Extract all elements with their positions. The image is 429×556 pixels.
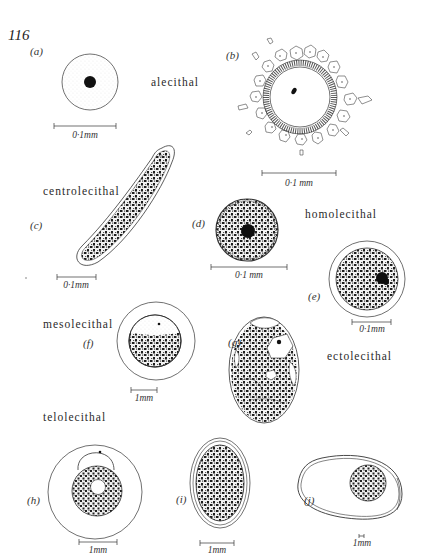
egg-types-diagram [0, 0, 429, 556]
egg-c-centrolecithal [25, 146, 174, 280]
term-mesolecithal: mesolecithal [43, 318, 113, 330]
scale-bar-label-d: 0·1 mm [224, 270, 274, 280]
panel-label-d: (d) [192, 217, 205, 229]
scale-bar-label-a: 0·1mm [60, 130, 110, 140]
egg-h-telolecithal [48, 445, 142, 545]
panel-label-f: (f) [83, 337, 93, 349]
panel-label-a: (a) [30, 45, 43, 57]
term-telolecithal: telolecithal [43, 411, 106, 423]
egg-g-ectolecithal [229, 317, 299, 423]
term-homolecithal: homolecithal [305, 208, 377, 220]
scale-bar-label-i: 1mm [201, 545, 233, 555]
scale-bar-label-f: 1mm [128, 393, 160, 403]
egg-d-homolecithal [211, 199, 287, 270]
panel-label-c: (c) [30, 219, 42, 231]
scale-bar-label-c: 0·1mm [56, 280, 96, 290]
panel-label-b: (b) [226, 49, 239, 61]
scale-bar-label-b: 0·1 mm [274, 178, 324, 188]
page-number: 116 [8, 27, 29, 44]
term-centrolecithal: centrolecithal [43, 185, 120, 197]
panel-label-e: (e) [308, 290, 320, 302]
egg-a-alecithal [54, 54, 118, 129]
term-ectolecithal: ectolecithal [327, 350, 392, 362]
scale-bar-label-h: 1mm [82, 545, 114, 555]
egg-i-oval-membranes [190, 438, 250, 546]
panel-label-h: (h) [27, 494, 40, 506]
scale-bar-label-j: 1mm [346, 538, 378, 548]
egg-b-with-follicle-cells [238, 38, 372, 176]
term-alecithal: alecithal [151, 76, 199, 88]
panel-label-j: (j) [304, 494, 314, 506]
scale-bar-label-e: 0·1mm [348, 324, 396, 334]
panel-label-g: (g) [228, 336, 241, 348]
egg-f-mesolecithal [117, 302, 195, 393]
egg-e-homolecithal-membrane [329, 241, 405, 325]
panel-label-i: (i) [176, 493, 186, 505]
